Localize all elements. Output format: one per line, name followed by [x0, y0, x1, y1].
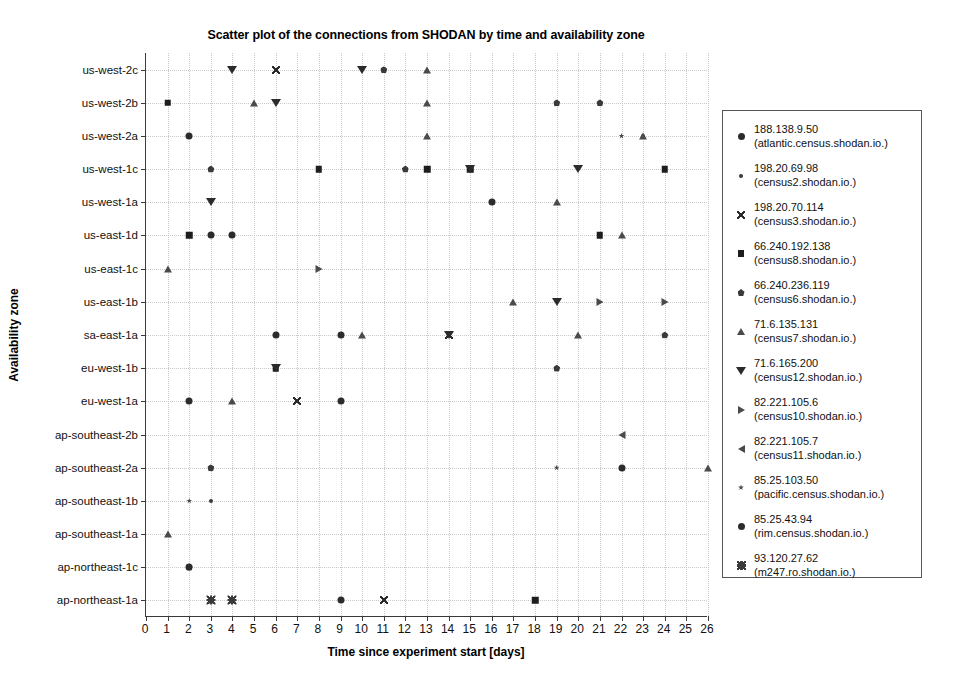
y-axis-tick [141, 401, 146, 402]
data-point-triangle-up[interactable] [228, 398, 236, 405]
x-axis-label-11: 11 [377, 622, 389, 636]
y-axis-label-us-west-1a: us-west-1a [82, 196, 138, 208]
data-point-triangle-up[interactable] [423, 132, 431, 139]
data-point-x[interactable] [380, 596, 388, 604]
data-point-square[interactable] [316, 166, 323, 173]
data-point-triangle-up[interactable] [358, 332, 366, 339]
legend-ip: 85.25.103.50 [754, 474, 818, 486]
legend-ip: 82.221.105.7 [754, 435, 818, 447]
legend-item[interactable]: 82.221.105.6(census10.shodan.io.) [723, 390, 921, 429]
data-point-circle[interactable] [337, 597, 344, 604]
legend-label: 85.25.103.50(pacific.census.shodan.io.) [750, 474, 884, 501]
legend-item[interactable]: 198.20.70.114(census3.shodan.io.) [723, 195, 921, 234]
data-point-dot[interactable] [186, 564, 193, 571]
legend-marker-dot-icon [732, 518, 750, 536]
data-point-pentagon[interactable] [207, 464, 214, 471]
data-point-square[interactable] [186, 232, 193, 239]
data-point-triangle-down[interactable] [357, 66, 367, 74]
data-point-triangle-up[interactable] [509, 298, 517, 305]
legend-hostname: (census10.shodan.io.) [754, 410, 862, 424]
data-point-circle[interactable] [186, 398, 193, 405]
data-point-triangle-up[interactable] [250, 99, 258, 106]
data-point-pentagon[interactable] [596, 99, 603, 106]
y-axis-tick-labels: us-west-2cus-west-2bus-west-2aus-west-1c… [0, 53, 138, 617]
data-point-triangle-down[interactable] [227, 66, 237, 74]
data-point-pentagon[interactable] [402, 166, 409, 173]
data-point-triangle-up[interactable] [553, 199, 561, 206]
y-axis-tick [141, 202, 146, 203]
data-point-square[interactable] [424, 166, 431, 173]
legend-item[interactable]: 82.221.105.7(census11.shodan.io.) [723, 429, 921, 468]
data-point-x[interactable] [293, 397, 301, 405]
data-point-triangle-up[interactable] [423, 99, 431, 106]
legend-item[interactable]: 66.240.192.138(census8.shodan.io.) [723, 234, 921, 273]
data-point-square[interactable] [164, 100, 171, 107]
data-point-dot-small[interactable] [209, 499, 213, 503]
data-point-pentagon[interactable] [553, 99, 560, 106]
data-point-triangle-down[interactable] [206, 198, 216, 206]
legend-item[interactable]: 85.25.43.94(rim.census.shodan.io.) [723, 507, 921, 546]
data-point-circle[interactable] [488, 199, 495, 206]
x-axis-tick [168, 616, 169, 621]
data-point-triangle-up[interactable] [639, 132, 647, 139]
data-point-triangle-up[interactable] [164, 531, 172, 538]
data-point-triangle-up[interactable] [704, 464, 712, 471]
gridline-horizontal [146, 501, 707, 502]
data-point-pentagon[interactable] [661, 332, 668, 339]
data-point-pentagon[interactable] [380, 66, 387, 73]
data-point-triangle-up[interactable] [423, 66, 431, 73]
legend-label: 82.221.105.7(census11.shodan.io.) [750, 435, 861, 462]
data-point-triangle-up[interactable] [574, 332, 582, 339]
data-point-plus[interactable] [228, 596, 237, 605]
y-axis-label-us-west-2a: us-west-2a [82, 130, 138, 142]
data-point-plus[interactable] [206, 596, 215, 605]
legend-item[interactable]: 71.6.135.131(census7.shodan.io.) [723, 312, 921, 351]
data-point-circle[interactable] [337, 398, 344, 405]
x-axis-tick [427, 616, 428, 621]
data-point-circle[interactable] [186, 132, 193, 139]
x-axis-label-16: 16 [484, 622, 497, 636]
data-point-square[interactable] [662, 166, 669, 173]
data-point-square[interactable] [532, 597, 539, 604]
data-point-triangle-down[interactable] [271, 99, 281, 107]
y-axis-tick [141, 269, 146, 270]
y-axis-tick [141, 70, 146, 71]
x-axis-label-8: 8 [315, 622, 322, 636]
x-axis-label-24: 24 [657, 622, 670, 636]
data-point-triangle-right[interactable] [315, 265, 322, 273]
legend-item[interactable]: 85.25.103.50(pacific.census.shodan.io.) [723, 468, 921, 507]
legend-item[interactable]: 71.6.165.200(census12.shodan.io.) [723, 351, 921, 390]
data-point-triangle-up[interactable] [618, 232, 626, 239]
y-axis-tick [141, 335, 146, 336]
data-point-triangle-right[interactable] [596, 298, 603, 306]
data-point-triangle-down[interactable] [465, 165, 475, 173]
legend-item[interactable]: 188.138.9.50(atlantic.census.shodan.io.) [723, 117, 921, 156]
data-point-circle[interactable] [229, 232, 236, 239]
data-point-x[interactable] [272, 66, 280, 74]
data-point-triangle-down[interactable] [444, 331, 454, 339]
data-point-circle[interactable] [618, 464, 625, 471]
y-axis-tick [141, 368, 146, 369]
legend-ip: 93.120.27.62 [754, 552, 818, 564]
data-point-triangle-down[interactable] [552, 298, 562, 306]
data-point-pentagon[interactable] [207, 166, 214, 173]
plot-area[interactable] [145, 53, 707, 617]
legend-marker-triangle-down-icon [732, 362, 750, 380]
data-point-triangle-down[interactable] [573, 165, 583, 173]
y-axis-label-sa-east-1a: sa-east-1a [84, 329, 138, 341]
data-point-circle[interactable] [337, 332, 344, 339]
data-point-square[interactable] [597, 232, 604, 239]
legend-ip: 85.25.43.94 [754, 513, 812, 525]
data-point-pentagon[interactable] [553, 365, 560, 372]
x-axis-label-10: 10 [354, 622, 367, 636]
legend-item[interactable]: 66.240.236.119(census6.shodan.io.) [723, 273, 921, 312]
data-point-dot[interactable] [272, 332, 279, 339]
data-point-circle[interactable] [207, 232, 214, 239]
y-axis-tick [141, 468, 146, 469]
data-point-triangle-right[interactable] [661, 298, 668, 306]
data-point-triangle-down[interactable] [271, 364, 281, 372]
data-point-triangle-up[interactable] [164, 265, 172, 272]
legend-item[interactable]: 93.120.27.62(m247.ro.shodan.io.) [723, 546, 921, 585]
data-point-triangle-left[interactable] [618, 431, 625, 439]
legend-item[interactable]: 198.20.69.98(census2.shodan.io.) [723, 156, 921, 195]
